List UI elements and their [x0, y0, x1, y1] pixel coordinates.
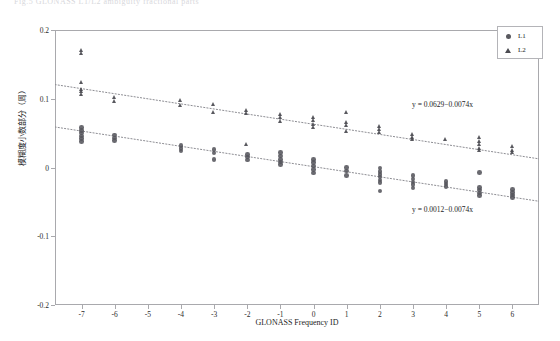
figure: -7-6-5-4-3-2-10123456-0.2-0.100.10.2 GLO… — [0, 0, 560, 341]
y-tick-label: -0.2 — [19, 301, 49, 310]
x-tick-mark — [148, 305, 149, 309]
data-point-l1 — [311, 171, 316, 176]
trendline-equation-l1: y = 0.0012−0.0074x — [412, 205, 473, 214]
x-axis-title: GLONASS Frequency ID — [55, 318, 539, 327]
trendline-equation-l2: y = 0.0629−0.0074x — [412, 100, 473, 109]
data-point-l2 — [79, 51, 83, 55]
x-tick-mark — [413, 305, 414, 309]
data-point-l1 — [179, 149, 184, 154]
legend-item-l2[interactable]: L2 — [498, 43, 542, 57]
data-markers-layer — [55, 30, 539, 305]
data-point-l2 — [211, 102, 215, 106]
data-point-l2 — [211, 110, 215, 114]
data-point-l1 — [212, 157, 217, 162]
x-tick-mark — [446, 305, 447, 309]
data-point-l1 — [112, 138, 117, 143]
x-tick-mark — [512, 305, 513, 309]
legend-item-l1[interactable]: L1 — [498, 29, 542, 43]
data-point-l2 — [477, 148, 481, 152]
y-axis-title: 模糊度小数部分（周） — [16, 61, 27, 191]
data-point-l2 — [510, 150, 514, 154]
y-tick-label: 0.2 — [19, 26, 49, 35]
data-point-l1 — [477, 193, 482, 198]
data-point-l1 — [212, 151, 217, 156]
data-point-l1 — [278, 162, 283, 167]
data-point-l2 — [178, 98, 182, 102]
x-tick-mark — [82, 305, 83, 309]
data-point-l1 — [378, 180, 383, 185]
data-point-l2 — [344, 129, 348, 133]
data-point-l1 — [378, 189, 383, 194]
x-tick-mark — [479, 305, 480, 309]
data-point-l1 — [510, 195, 515, 200]
x-tick-mark — [247, 305, 248, 309]
y-tick-mark — [51, 30, 55, 31]
y-tick-mark — [51, 168, 55, 169]
y-tick-label: -0.1 — [19, 232, 49, 241]
data-point-l1 — [245, 158, 250, 163]
data-point-l1 — [79, 139, 84, 144]
legend-label-l1: L1 — [518, 32, 526, 40]
x-tick-mark — [181, 305, 182, 309]
data-point-l1 — [477, 170, 482, 175]
data-point-l2 — [178, 103, 182, 107]
x-tick-mark — [280, 305, 281, 309]
data-point-l2 — [79, 92, 83, 96]
y-tick-mark — [51, 305, 55, 306]
data-point-l1 — [444, 184, 449, 189]
data-point-l2 — [112, 99, 116, 103]
data-point-l2 — [278, 119, 282, 123]
legend: L1 L2 — [497, 26, 543, 59]
data-point-l2 — [443, 137, 447, 141]
data-point-l2 — [311, 125, 315, 129]
data-point-l2 — [344, 123, 348, 127]
y-tick-mark — [51, 99, 55, 100]
x-tick-mark — [347, 305, 348, 309]
x-tick-mark — [214, 305, 215, 309]
data-point-l1 — [344, 173, 349, 178]
x-tick-mark — [314, 305, 315, 309]
y-tick-mark — [51, 236, 55, 237]
data-point-l2 — [344, 110, 348, 114]
data-point-l2 — [244, 111, 248, 115]
data-point-l2 — [244, 142, 248, 146]
x-tick-mark — [115, 305, 116, 309]
data-point-l2 — [377, 130, 381, 134]
data-point-l1 — [411, 186, 416, 191]
x-tick-mark — [380, 305, 381, 309]
data-point-l2 — [410, 137, 414, 141]
legend-label-l2: L2 — [518, 46, 526, 54]
data-point-l2 — [79, 80, 83, 84]
triangle-marker-icon — [498, 48, 518, 53]
circle-marker-icon — [498, 34, 518, 39]
